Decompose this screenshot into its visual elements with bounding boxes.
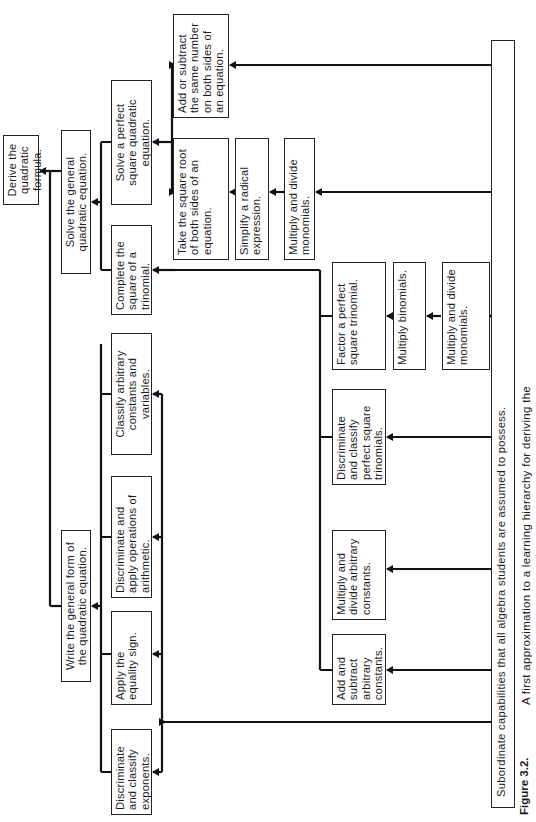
node-discriminate-exponents: Discriminate and classify exponents. bbox=[111, 729, 152, 815]
node-classify-constants: Classify arbitrary constants and variabl… bbox=[111, 333, 152, 455]
figure-label: Figure 3.2. bbox=[518, 757, 530, 815]
figure-caption: A first approximation to a learning hier… bbox=[520, 386, 532, 705]
node-write-general-form: Write the general form of the quadratic … bbox=[61, 530, 91, 682]
node-solve-perfect-square: Solve a perfect square quadratic equatio… bbox=[111, 80, 152, 205]
node-apply-equality-sign: Apply the equality sign. bbox=[111, 611, 152, 705]
node-add-subtract-constants: Add and subtract arbitrary constants. bbox=[332, 634, 386, 705]
node-complete-square: Complete the square of a trinomial. bbox=[111, 225, 152, 315]
node-multiply-monomials-lower: Multiply and divide monomials. bbox=[442, 262, 490, 370]
node-discriminate-arithmetic: Discriminate and apply operations of ari… bbox=[111, 476, 152, 598]
node-multiply-binomials: Multiply binomials. bbox=[393, 262, 426, 370]
subordinate-capabilities-bar: Subordinate capabilities that all algebr… bbox=[491, 40, 515, 808]
node-multiply-monomials-upper: Multiply and divide monomials. bbox=[284, 138, 315, 260]
connector-lines bbox=[0, 0, 536, 822]
node-add-subtract-number: Add or subtract the same number on both … bbox=[173, 14, 229, 118]
node-solve-general-equation: Solve the general quadratic equation. bbox=[61, 130, 91, 274]
node-discriminate-trinomials: Discriminate and classify perfect square… bbox=[332, 389, 386, 485]
node-simplify-radical: Simplify a radical expression. bbox=[235, 138, 269, 260]
hierarchy-diagram: Derive the quadratic formula. Write the … bbox=[0, 0, 536, 822]
node-derive-quadratic-formula: Derive the quadratic formula. bbox=[3, 135, 39, 205]
node-factor-trinomial: Factor a perfect square trinomial. bbox=[332, 262, 386, 370]
node-take-square-root: Take the square root of both sides of an… bbox=[173, 138, 229, 260]
node-multiply-divide-constants: Multiply and divide arbitrary constants. bbox=[332, 530, 386, 620]
